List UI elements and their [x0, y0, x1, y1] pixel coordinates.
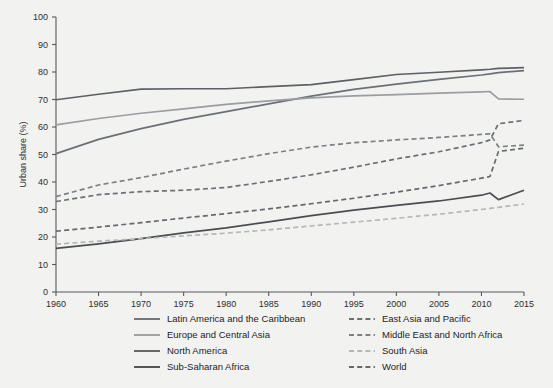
x-axis-tick-label: 2010	[471, 299, 491, 309]
x-axis-tick-label: 1980	[216, 299, 236, 309]
legend-label: North America	[167, 346, 227, 356]
legend-label: Sub-Saharan Africa	[167, 362, 249, 372]
legend-swatch-solid-icon	[134, 345, 160, 357]
series-group	[56, 68, 524, 249]
y-axis-tick-label: 100	[33, 12, 48, 22]
y-axis-tick-label: 90	[38, 40, 48, 50]
series-line-north-america	[56, 68, 524, 100]
legend-entry[interactable]: North America	[134, 343, 305, 359]
x-axis-tick-label: 1960	[46, 299, 66, 309]
series-line-latin-america-and-the-caribbean	[56, 71, 524, 154]
legend-swatch-dashed-icon	[349, 361, 375, 373]
chart-legend: Latin America and the CaribbeanEurope an…	[134, 311, 534, 375]
legend-label: Latin America and the Caribbean	[167, 314, 305, 324]
legend-entry[interactable]: Sub-Saharan Africa	[134, 359, 305, 375]
legend-column-left: Latin America and the CaribbeanEurope an…	[134, 311, 305, 375]
legend-label: East Asia and Pacific	[382, 314, 471, 324]
x-axis-tick-label: 1965	[89, 299, 109, 309]
legend-label: World	[382, 362, 407, 372]
x-axis-tick-label: 2000	[386, 299, 406, 309]
y-axis-tick-label: 40	[38, 177, 48, 187]
x-axis-tick-label: 1970	[131, 299, 151, 309]
legend-swatch-dashed-icon	[349, 329, 375, 341]
legend-swatch-solid-icon	[134, 361, 160, 373]
legend-label: Middle East and North Africa	[382, 330, 502, 340]
x-axis-tick-label: 1975	[174, 299, 194, 309]
legend-label: South Asia	[382, 346, 427, 356]
legend-swatch-dashed-icon	[349, 313, 375, 325]
legend-entry[interactable]: Middle East and North Africa	[349, 327, 502, 343]
y-axis-title: Urban share (%)	[18, 121, 28, 187]
legend-swatch-solid-icon	[134, 329, 160, 341]
figure-container: 0102030405060708090100196019651970197519…	[0, 0, 553, 388]
x-axis-tick-label: 1995	[344, 299, 364, 309]
y-axis-tick-label: 0	[43, 287, 48, 297]
y-axis-tick-label: 30	[38, 205, 48, 215]
y-axis-tick-label: 70	[38, 95, 48, 105]
series-line-europe-and-central-asia	[56, 92, 524, 125]
legend-entry[interactable]: East Asia and Pacific	[349, 311, 502, 327]
y-axis-tick-label: 60	[38, 122, 48, 132]
series-line-middle-east-and-north-africa	[56, 134, 524, 197]
legend-entry[interactable]: South Asia	[349, 343, 502, 359]
legend-swatch-solid-icon	[134, 313, 160, 325]
legend-swatch-dashed-icon	[349, 345, 375, 357]
x-axis-tick-label: 1985	[259, 299, 279, 309]
legend-label: Europe and Central Asia	[167, 330, 270, 340]
axis-title-group: Urban share (%)	[18, 121, 28, 187]
x-axis-tick-label: 2005	[429, 299, 449, 309]
legend-entry[interactable]: Europe and Central Asia	[134, 327, 305, 343]
axes-group	[52, 17, 524, 296]
y-axis-tick-label: 50	[38, 150, 48, 160]
x-axis-tick-label: 1990	[301, 299, 321, 309]
y-axis-tick-label: 10	[38, 260, 48, 270]
x-axis-tick-label: 2015	[514, 299, 534, 309]
y-axis-tick-label: 20	[38, 232, 48, 242]
legend-entry[interactable]: World	[349, 359, 502, 375]
y-axis-tick-label: 80	[38, 67, 48, 77]
tick-label-group: 0102030405060708090100196019651970197519…	[33, 12, 534, 309]
legend-entry[interactable]: Latin America and the Caribbean	[134, 311, 305, 327]
legend-column-right: East Asia and PacificMiddle East and Nor…	[349, 311, 502, 375]
